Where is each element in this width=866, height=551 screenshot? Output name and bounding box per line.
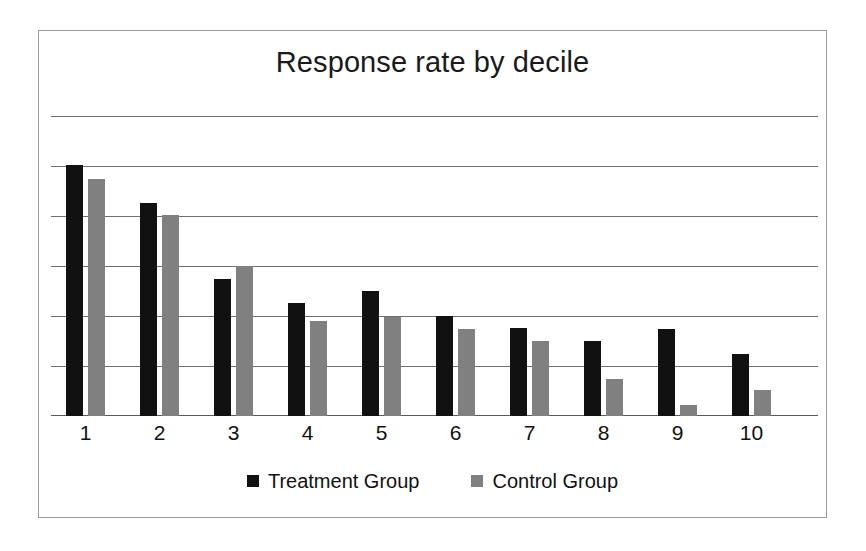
bar-control-decile-4[interactable]: [310, 321, 327, 416]
chart-legend: Treatment Group Control Group: [39, 469, 826, 493]
decile-group-5: [362, 116, 436, 416]
decile-group-6: [436, 116, 510, 416]
legend-label-treatment: Treatment Group: [268, 469, 420, 493]
decile-group-8: [584, 116, 658, 416]
decile-group-10: [732, 116, 806, 416]
bar-control-decile-2[interactable]: [162, 215, 179, 416]
decile-group-4: [288, 116, 362, 416]
bar-control-decile-3[interactable]: [236, 266, 253, 416]
x-tick-label-9: 9: [650, 420, 706, 446]
x-tick-label-7: 7: [502, 420, 558, 446]
decile-group-1: [66, 116, 140, 416]
x-tick-label-2: 2: [132, 420, 188, 446]
legend-swatch-control-icon: [471, 475, 483, 487]
bar-treatment-decile-9[interactable]: [658, 329, 675, 416]
decile-group-3: [214, 116, 288, 416]
bar-control-decile-7[interactable]: [532, 341, 549, 416]
x-tick-label-3: 3: [206, 420, 262, 446]
bars-layer: [66, 116, 806, 416]
bar-treatment-decile-7[interactable]: [510, 328, 527, 416]
bar-control-decile-10[interactable]: [754, 390, 771, 416]
bar-treatment-decile-2[interactable]: [140, 203, 157, 416]
legend-entry-treatment: Treatment Group: [247, 469, 420, 493]
x-tick-label-8: 8: [576, 420, 632, 446]
bar-treatment-decile-4[interactable]: [288, 303, 305, 416]
decile-group-9: [658, 116, 732, 416]
x-axis-tick-labels: 12345678910: [51, 420, 818, 450]
chart-frame: Response rate by decile 12345678910 Trea…: [38, 30, 827, 518]
bar-treatment-decile-8[interactable]: [584, 341, 601, 416]
x-tick-label-5: 5: [354, 420, 410, 446]
bar-control-decile-5[interactable]: [384, 317, 401, 416]
bar-treatment-decile-10[interactable]: [732, 354, 749, 416]
bar-control-decile-6[interactable]: [458, 329, 475, 416]
chart-title: Response rate by decile: [39, 45, 826, 79]
x-tick-label-10: 10: [724, 420, 780, 446]
decile-group-7: [510, 116, 584, 416]
legend-swatch-treatment-icon: [247, 475, 259, 487]
legend-label-control: Control Group: [492, 469, 618, 493]
decile-group-2: [140, 116, 214, 416]
bar-treatment-decile-5[interactable]: [362, 291, 379, 416]
bar-treatment-decile-1[interactable]: [66, 165, 83, 416]
bar-control-decile-1[interactable]: [88, 179, 105, 416]
bar-treatment-decile-6[interactable]: [436, 316, 453, 416]
bar-treatment-decile-3[interactable]: [214, 279, 231, 416]
x-tick-label-1: 1: [58, 420, 114, 446]
x-tick-label-4: 4: [280, 420, 336, 446]
bar-control-decile-9[interactable]: [680, 405, 697, 416]
x-tick-label-6: 6: [428, 420, 484, 446]
bar-control-decile-8[interactable]: [606, 379, 623, 416]
plot-area: [51, 116, 818, 416]
legend-entry-control: Control Group: [471, 469, 618, 493]
